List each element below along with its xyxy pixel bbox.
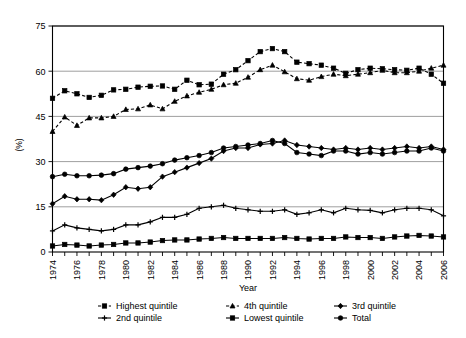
- data-point-2-7: [136, 186, 141, 191]
- data-point-1-32: [441, 63, 446, 68]
- legend-marker-4: [230, 316, 234, 320]
- data-point-4-0: [50, 244, 54, 248]
- series-lowest-quintile: [50, 233, 445, 248]
- data-series-group: [50, 46, 446, 248]
- data-point-1-31: [429, 66, 434, 71]
- data-point-0-31: [429, 72, 433, 76]
- data-point-3-26: [368, 208, 373, 213]
- x-axis-title: Year: [239, 283, 257, 293]
- x-tick-label-2000: 2000: [366, 260, 376, 280]
- data-point-5-7: [136, 165, 141, 170]
- legend-item-4[interactable]: Lowest quintile: [226, 313, 304, 323]
- data-point-1-20: [294, 76, 299, 81]
- legend-item-5[interactable]: Total: [334, 313, 371, 323]
- legend-item-0[interactable]: Highest quintile: [98, 301, 178, 311]
- data-point-3-21: [306, 210, 311, 215]
- data-point-4-32: [441, 235, 445, 239]
- legend-item-2[interactable]: 3rd quintile: [334, 301, 396, 311]
- data-point-4-9: [160, 238, 164, 242]
- y-tick-label-15: 15: [35, 202, 45, 212]
- legend-label-0: Highest quintile: [116, 301, 178, 311]
- data-point-4-14: [221, 235, 225, 239]
- data-point-3-23: [331, 210, 336, 215]
- data-point-5-11: [185, 155, 190, 160]
- legend-label-2: 3rd quintile: [352, 301, 396, 311]
- data-point-4-7: [136, 241, 140, 245]
- data-point-0-6: [124, 87, 128, 91]
- data-point-3-7: [135, 222, 140, 227]
- legend-item-1[interactable]: 4th quintile: [226, 301, 288, 311]
- x-tick-label-1974: 1974: [48, 260, 58, 280]
- data-point-4-26: [368, 235, 372, 239]
- data-point-5-8: [148, 164, 153, 169]
- x-tick-label-2006: 2006: [439, 260, 449, 280]
- data-point-3-28: [392, 207, 397, 212]
- data-point-2-21: [307, 144, 312, 149]
- data-point-2-22: [319, 145, 324, 150]
- data-point-0-20: [295, 60, 299, 64]
- data-point-4-20: [295, 236, 299, 240]
- data-point-4-19: [282, 235, 286, 239]
- data-point-3-4: [99, 228, 104, 233]
- data-point-0-1: [63, 89, 67, 93]
- data-point-0-5: [111, 88, 115, 92]
- data-point-0-8: [148, 84, 152, 88]
- data-point-2-6: [123, 185, 128, 190]
- data-point-5-23: [331, 149, 336, 154]
- legend-marker-2: [338, 303, 343, 308]
- data-point-3-8: [148, 219, 153, 224]
- series-3rd-quintile: [50, 138, 446, 207]
- data-point-4-18: [270, 236, 274, 240]
- data-point-4-31: [429, 234, 433, 238]
- chart-legend: Highest quintile4th quintile3rd quintile…: [98, 301, 396, 323]
- x-tick-label-1996: 1996: [317, 260, 327, 280]
- legend-item-3[interactable]: 2nd quintile: [98, 313, 162, 323]
- data-point-3-18: [270, 209, 275, 214]
- data-point-3-6: [123, 222, 128, 227]
- data-point-5-31: [429, 146, 434, 151]
- data-point-4-13: [209, 236, 213, 240]
- x-tick-label-1992: 1992: [268, 260, 278, 280]
- data-point-5-19: [282, 141, 287, 146]
- x-tick-label-1978: 1978: [97, 260, 107, 280]
- data-point-4-12: [197, 237, 201, 241]
- data-point-5-24: [343, 149, 348, 154]
- data-point-0-3: [87, 95, 91, 99]
- data-point-5-17: [258, 141, 263, 146]
- data-point-4-3: [87, 244, 91, 248]
- x-tick-label-2002: 2002: [390, 260, 400, 280]
- y-tick-label-0: 0: [40, 247, 45, 257]
- data-point-3-3: [87, 227, 92, 232]
- data-point-0-16: [246, 58, 250, 62]
- data-point-5-18: [270, 138, 275, 143]
- data-point-0-2: [75, 92, 79, 96]
- data-point-4-6: [124, 241, 128, 245]
- data-point-5-1: [62, 172, 67, 177]
- data-point-0-9: [160, 84, 164, 88]
- data-point-5-16: [246, 143, 251, 148]
- data-point-3-16: [245, 207, 250, 212]
- data-point-5-10: [172, 158, 177, 163]
- data-point-5-15: [233, 144, 238, 149]
- data-point-4-5: [111, 242, 115, 246]
- data-point-5-26: [368, 150, 373, 155]
- y-axis-tick-labels: 01530456075: [35, 21, 45, 257]
- line-chart: 01530456075 1974197619781980198219841986…: [0, 0, 466, 338]
- data-point-5-5: [111, 171, 116, 176]
- series-2nd-quintile: [50, 203, 446, 234]
- data-point-2-1: [62, 194, 67, 199]
- x-tick-label-1998: 1998: [341, 260, 351, 280]
- data-point-4-21: [307, 237, 311, 241]
- series-4th-quintile: [50, 63, 446, 134]
- x-tick-label-1982: 1982: [146, 260, 156, 280]
- data-point-5-25: [356, 152, 361, 157]
- data-point-5-13: [209, 150, 214, 155]
- data-point-0-32: [441, 81, 445, 85]
- legend-marker-5: [338, 316, 343, 321]
- y-tick-label-60: 60: [35, 67, 45, 77]
- x-tick-label-1976: 1976: [72, 260, 82, 280]
- data-point-5-6: [124, 167, 129, 172]
- legend-label-5: Total: [352, 313, 371, 323]
- x-tick-label-2004: 2004: [414, 260, 424, 280]
- series-highest-quintile: [50, 46, 445, 100]
